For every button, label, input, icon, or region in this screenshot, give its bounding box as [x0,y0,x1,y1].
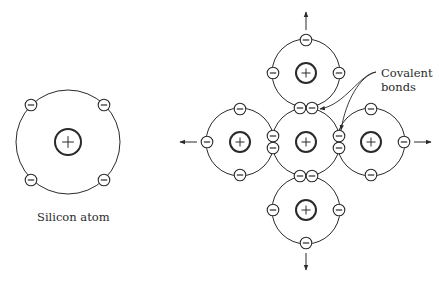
electron-icon [234,103,246,115]
electron-icon [294,170,306,182]
diagram-canvas: Silicon atom Covalent bonds [0,0,439,282]
electron-icon [300,237,312,249]
silicon-bonding-diagram [0,0,439,282]
silicon-nucleus-icon [55,129,81,155]
electron-icon [234,169,246,181]
electron-icon [267,142,279,154]
electron-icon [365,103,377,115]
electron-icon [365,169,377,181]
nucleus-left-icon [230,132,250,152]
electron-icon [98,174,110,186]
electron-icon [294,102,306,114]
electron-icon [267,130,279,142]
electron-icon [333,142,345,154]
covalent-label-line2: bonds [381,80,433,94]
nucleus-bottom-icon [296,200,316,220]
electron-icon [267,67,279,79]
electron-icon [333,67,345,79]
electron-icon [25,174,37,186]
covalent-bonds-label: Covalent bonds [381,66,433,94]
electron-icon [306,170,318,182]
nucleus-top-icon [296,63,316,83]
electron-icon [333,130,345,142]
electron-icon [398,136,410,148]
electron-icon [201,136,213,148]
silicon-atom-label: Silicon atom [37,210,110,224]
electron-icon [98,99,110,111]
nucleus-center-icon [296,132,316,152]
electron-icon [267,204,279,216]
electron-icon [25,99,37,111]
electron-icon [306,102,318,114]
electron-icon [333,204,345,216]
bond-pointer-2 [341,72,376,130]
electron-icon [300,34,312,46]
covalent-label-line1: Covalent [381,66,433,80]
nucleus-right-icon [361,132,381,152]
